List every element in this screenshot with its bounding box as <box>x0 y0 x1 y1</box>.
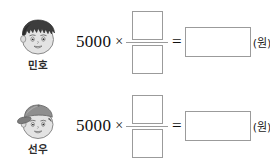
student-block: 민호 <box>0 2 76 82</box>
fraction-bar-icon <box>126 126 168 127</box>
answer-input[interactable] <box>185 111 251 141</box>
problem-row: 민호 5000 × = (원) <box>0 0 270 84</box>
numerator-input[interactable] <box>132 11 163 40</box>
currency-unit-label: (원) <box>253 34 270 50</box>
multiplicand: 5000 <box>76 32 111 52</box>
numerator-input[interactable] <box>132 95 163 124</box>
boy-spiky-hair-face-icon <box>16 15 60 59</box>
denominator-input[interactable] <box>132 45 163 74</box>
equation: 5000 × = (원) <box>76 0 270 84</box>
currency-unit-label: (원) <box>253 118 270 134</box>
worksheet: 민호 5000 × = (원) <box>0 0 270 168</box>
multiplication-icon: × <box>115 118 123 134</box>
fraction <box>126 11 168 74</box>
student-name: 민호 <box>28 60 48 72</box>
student-block: 선우 <box>0 86 76 166</box>
boy-with-cap-face-icon <box>16 99 60 143</box>
fraction <box>126 95 168 158</box>
problem-row: 선우 5000 × = (원) <box>0 84 270 168</box>
multiplicand: 5000 <box>76 116 111 136</box>
denominator-input[interactable] <box>132 129 163 158</box>
answer-input[interactable] <box>185 27 251 57</box>
equals-icon: = <box>172 32 182 52</box>
student-name: 선우 <box>28 144 48 156</box>
fraction-bar-icon <box>126 42 168 43</box>
equals-icon: = <box>172 116 182 136</box>
multiplication-icon: × <box>115 34 123 50</box>
equation: 5000 × = (원) <box>76 84 270 168</box>
